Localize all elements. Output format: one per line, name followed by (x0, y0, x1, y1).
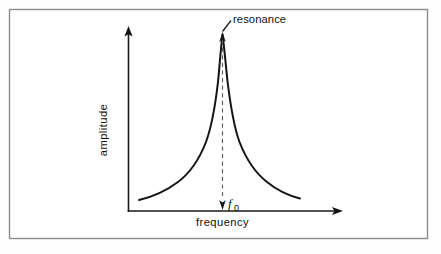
figure-container: resonance frequency amplitude f 0 (0, 0, 441, 254)
y-axis-label: amplitude (97, 104, 109, 157)
resonance-label: resonance (233, 13, 286, 25)
resonance-curve-figure: resonance frequency amplitude f 0 (0, 0, 441, 254)
figure-border (10, 10, 428, 239)
resonant-frequency-subscript: 0 (234, 203, 239, 213)
x-axis-label: frequency (196, 216, 249, 228)
